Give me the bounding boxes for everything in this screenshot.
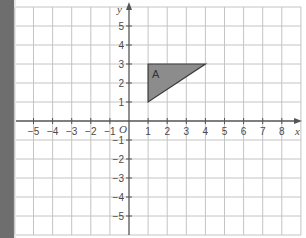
svg-text:1: 1 (145, 126, 151, 137)
svg-text:−4: −4 (113, 192, 125, 203)
svg-text:8: 8 (279, 126, 285, 137)
svg-text:2: 2 (118, 78, 124, 89)
svg-text:−5: −5 (28, 126, 40, 137)
svg-text:7: 7 (260, 126, 266, 137)
svg-text:−3: −3 (66, 126, 78, 137)
svg-text:−2: −2 (113, 154, 125, 165)
coordinate-plane: A −5 −4 −3 −2 −1 (0, 0, 306, 238)
svg-text:−3: −3 (113, 173, 125, 184)
x-axis-tick-labels: −5 −4 −3 −2 −1 1 2 3 4 5 6 7 8 (28, 126, 285, 137)
svg-text:−2: −2 (85, 126, 97, 137)
x-axis-label: x (294, 125, 300, 137)
svg-text:−4: −4 (47, 126, 59, 137)
origin-label: O (119, 123, 127, 135)
y-axis-arrow-icon (126, 2, 132, 10)
triangle-a-label: A (152, 68, 160, 80)
svg-text:4: 4 (118, 40, 124, 51)
svg-text:4: 4 (203, 126, 209, 137)
svg-text:5: 5 (118, 21, 124, 32)
svg-text:3: 3 (118, 59, 124, 70)
svg-text:−1: −1 (113, 135, 125, 146)
svg-text:3: 3 (184, 126, 190, 137)
svg-text:6: 6 (241, 126, 247, 137)
svg-text:−5: −5 (113, 211, 125, 222)
y-axis-label: y (116, 3, 122, 15)
svg-text:2: 2 (164, 126, 170, 137)
svg-text:5: 5 (222, 126, 228, 137)
svg-text:1: 1 (118, 97, 124, 108)
